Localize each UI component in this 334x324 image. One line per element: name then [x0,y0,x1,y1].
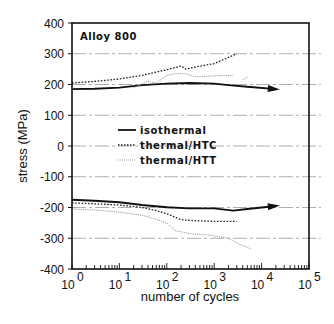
y-tick-label: -100 [40,170,64,184]
stress-vs-cycles-chart: 100101102103104105 4003002001000-100-200… [0,0,334,324]
x-axis-title: number of cycles [141,289,240,304]
x-axis-ticks: 100101102103104105 [61,263,321,292]
data-curves [72,54,280,249]
x-tick-exponent: 4 [267,270,274,284]
y-tick-label: -400 [40,263,64,277]
alloy-annotation: Alloy 800 [80,31,137,42]
x-tick-label: 10 [251,278,265,292]
series-isothermal-tension [72,83,276,89]
legend-label-htc: thermal/HTC [140,140,217,151]
series-thermal-htt-compression [72,209,251,249]
y-axis-title: stress (MPa) [15,109,30,183]
x-tick-label: 10 [61,278,75,292]
legend-label-htt: thermal/HTT [140,155,217,166]
arrow-head-icon [268,203,280,210]
y-tick-label: 200 [44,78,64,92]
y-axis-ticks: 4003002001000-100-200-300-400 [40,17,72,277]
legend-label-isothermal: isothermal [140,125,206,136]
x-tick-exponent: 5 [314,270,321,284]
x-tick-label: 10 [109,278,123,292]
series-isothermal-compression [72,200,276,211]
y-tick-label: -200 [40,201,64,215]
y-tick-label: 300 [44,47,64,61]
y-tick-label: 400 [44,17,64,31]
y-tick-label: 0 [57,140,64,154]
y-tick-label: 100 [44,109,64,123]
y-tick-label: -300 [40,232,64,246]
x-tick-exponent: 0 [77,270,84,284]
series-thermal-htc-tension [72,54,237,83]
x-tick-exponent: 1 [124,270,131,284]
series-thermal-htt-tension-fragment [243,77,248,80]
legend: isothermal thermal/HTC thermal/HTT [118,125,217,166]
arrow-head-icon [268,85,280,92]
x-tick-exponent: 3 [219,270,226,284]
x-tick-exponent: 2 [172,270,179,284]
x-tick-label: 10 [298,278,312,292]
